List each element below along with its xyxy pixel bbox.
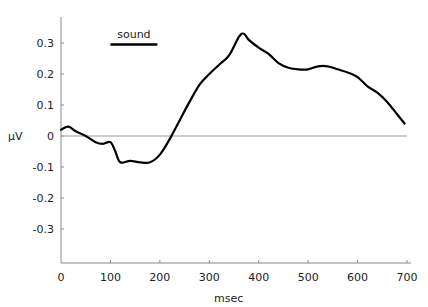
y-tick-label: 0	[47, 130, 54, 143]
x-axis-label: msec	[214, 292, 243, 305]
x-tick-label: 500	[298, 271, 319, 284]
x-tick-label: 700	[397, 271, 418, 284]
x-tick-label: 200	[149, 271, 170, 284]
y-axis-label: µV	[8, 130, 23, 143]
y-tick-label: 0.1	[37, 99, 55, 112]
erp-waveform	[61, 33, 405, 162]
y-tick-label: -0.1	[33, 161, 54, 174]
y-tick-label: -0.3	[33, 223, 54, 236]
axes: 0.30.20.10-0.1-0.2-0.3010020030040050060…	[33, 17, 418, 284]
x-tick-label: 100	[100, 271, 121, 284]
x-tick-label: 400	[248, 271, 269, 284]
y-tick-label: -0.2	[33, 192, 54, 205]
x-tick-label: 0	[58, 271, 65, 284]
sound-label: sound	[117, 28, 150, 41]
erp-chart: 0.30.20.10-0.1-0.2-0.3010020030040050060…	[0, 0, 428, 307]
x-tick-label: 600	[347, 271, 368, 284]
x-tick-label: 300	[199, 271, 220, 284]
waveform-line	[61, 33, 405, 162]
sound-annotation: sound	[110, 28, 157, 45]
y-tick-label: 0.3	[37, 37, 55, 50]
y-tick-label: 0.2	[37, 68, 55, 81]
